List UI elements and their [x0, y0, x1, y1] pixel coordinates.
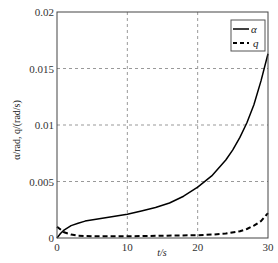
line-chart: 0102030 00.0050.010.0150.02 t/s α/rad, q…: [0, 0, 278, 263]
y-tick-label: 0.005: [29, 176, 54, 188]
x-axis-label: t/s: [157, 247, 167, 258]
y-axis-label: α/rad, q/(rad/s): [11, 100, 23, 160]
y-tick-label: 0.02: [35, 6, 54, 18]
y-axis-ticks: 00.0050.010.0150.02: [29, 6, 54, 244]
y-tick-label: 0: [49, 232, 55, 244]
legend-box: [231, 20, 265, 51]
legend-alpha-label: α: [251, 23, 257, 35]
x-tick-label: 20: [192, 241, 204, 253]
x-tick-label: 10: [122, 241, 134, 253]
series-lines: [57, 54, 268, 238]
y-tick-label: 0.015: [29, 63, 54, 75]
x-tick-label: 0: [54, 241, 60, 253]
legend: α q: [231, 20, 265, 51]
series-line-q: [57, 213, 268, 236]
legend-q-label: q: [253, 37, 259, 49]
x-tick-label: 30: [263, 241, 275, 253]
y-tick-label: 0.01: [35, 119, 54, 131]
series-line-alpha: [57, 54, 268, 238]
